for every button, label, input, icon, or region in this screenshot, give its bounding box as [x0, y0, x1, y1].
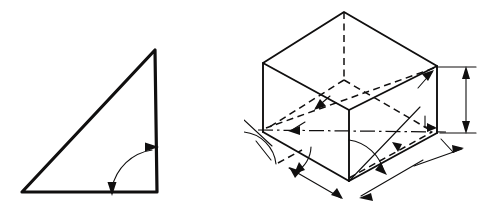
right-base-dimension: [359, 139, 464, 201]
left-base-extension-tick: [256, 141, 271, 160]
right-triangle-svg: [0, 0, 244, 215]
included-angle-arc: [108, 143, 160, 197]
right-base-arrowhead-start: [359, 193, 373, 201]
height-dimension-arrowhead-bottom: [462, 121, 470, 134]
isometric-box-svg: [244, 0, 488, 215]
triangle-outline: [22, 50, 157, 192]
right-height-dimension: [437, 66, 476, 134]
right-base-hook-arrowhead: [427, 123, 437, 132]
centre-line-path: [258, 130, 446, 132]
left-base-arrowhead-end: [331, 188, 343, 199]
horizontal-centre-line: [258, 130, 446, 132]
right-base-extension-tick: [441, 139, 453, 152]
figure-sheet: [0, 0, 488, 215]
angle-arc-arrowhead-base: [108, 182, 117, 196]
centre-line-leader-arrowhead: [288, 126, 300, 135]
figure-isometric-box: [244, 0, 488, 215]
figure-right-triangle: [0, 0, 244, 215]
angle-arc-path: [112, 150, 152, 188]
front-vertex-ray-tick: [392, 142, 402, 152]
left-base-edge-angle-tick: [244, 0, 311, 174]
triangle-edges: [22, 50, 157, 192]
top-face-edges: [263, 12, 437, 110]
base-edge-front-right: [349, 133, 437, 181]
hidden-edge-diagonal-lower-right: [349, 132, 432, 178]
hidden-edges-group: [266, 12, 434, 178]
base-edge-front-left: [263, 132, 349, 181]
height-dimension-arrowhead-top: [462, 66, 470, 79]
solid-body-edges: [263, 12, 437, 181]
